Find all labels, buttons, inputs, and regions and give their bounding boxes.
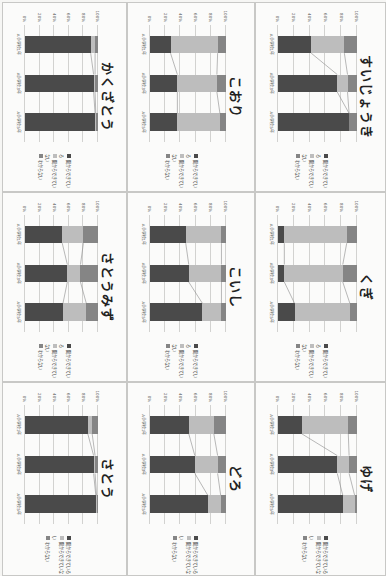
- x-category-label: A小学校5年: [16, 484, 22, 524]
- chart-title: こおり: [227, 3, 246, 191]
- y-tick-label: 40%: [52, 198, 57, 212]
- y-tick-label: 60%: [193, 388, 198, 402]
- chart-body: かくざとう 0%20%40%60%80%100%A小学校1年A小学校3年A小学校…: [3, 3, 126, 191]
- x-category-label: A小学校5年: [269, 484, 275, 524]
- y-tick-label: 40%: [178, 8, 183, 22]
- y-tick-label: 0%: [276, 198, 281, 212]
- y-tick-label: 0%: [23, 388, 28, 402]
- y-tick-label: 60%: [193, 8, 198, 22]
- x-category-label: A小学校1年: [269, 215, 275, 254]
- legend-item-can: 聞からできている: [192, 536, 199, 575]
- chart-rotator: かくざとう 0%20%40%60%80%100%A小学校1年A小学校3年A小学校…: [3, 3, 126, 191]
- plot-area: 0%20%40%60%80%100%A小学校1年A小学校3年A小学校5年: [278, 215, 357, 332]
- x-category-label: A小学校1年: [269, 25, 275, 64]
- legend-item-can: 聞からできている: [58, 154, 72, 191]
- legend-item-can: 聞からできている: [315, 344, 329, 381]
- x-category-label: A小学校3年: [269, 254, 275, 293]
- x-category-label: A小学校1年: [269, 405, 275, 445]
- y-tick-label: 0%: [148, 198, 153, 212]
- y-tick-label: 20%: [291, 8, 296, 22]
- chart-panel-2: すいじょうき 0%20%40%60%80%100%A小学校1年A小学校3年A小学…: [255, 2, 386, 192]
- chart-legend: 聞からできている 聞からできていない わからない: [37, 344, 72, 381]
- legend-item-unknown: わからない: [164, 154, 171, 191]
- legend-item-cannot: 聞からできていない: [301, 344, 315, 381]
- legend-swatch-icon: [53, 154, 57, 158]
- x-category-label: A小学校5年: [141, 484, 147, 524]
- chart-title: くぎ: [358, 193, 377, 381]
- y-tick-label: 80%: [81, 8, 86, 22]
- chart-legend: 聞からできている 聞からできていない わからない: [301, 536, 329, 575]
- y-tick-label: 100%: [355, 388, 360, 402]
- y-tick-label: 20%: [163, 198, 168, 212]
- y-tick-label: 60%: [323, 198, 328, 212]
- legend-swatch-icon: [324, 536, 328, 540]
- chart-title: すいじょうき: [358, 3, 377, 191]
- y-tick-label: 60%: [66, 388, 71, 402]
- y-tick-label: 80%: [208, 388, 213, 402]
- x-category-label: A小学校1年: [141, 405, 147, 445]
- y-tick-label: 100%: [224, 8, 229, 22]
- chart-body: さとうみず 0%20%40%60%80%100%A小学校1年A小学校3年A小学校…: [3, 193, 126, 381]
- plot-area: 0%20%40%60%80%100%A小学校1年A小学校3年A小学校5年: [150, 215, 226, 332]
- y-tick-label: 100%: [224, 388, 229, 402]
- legend-item-can: 聞からできている: [185, 344, 199, 381]
- plot-area: 0%20%40%60%80%100%A小学校1年A小学校3年A小学校5年: [25, 25, 98, 142]
- chart-title: こいし: [227, 193, 246, 381]
- x-category-label: A小学校1年: [141, 215, 147, 254]
- legend-swatch-icon: [180, 344, 184, 348]
- series-connector-lines: [150, 215, 226, 332]
- chart-rotator: くぎ 0%20%40%60%80%100%A小学校1年A小学校3年A小学校5年 …: [256, 193, 385, 381]
- chart-rotator: ゆげ 0%20%40%60%80%100%A小学校1年A小学校3年A小学校5年 …: [256, 383, 385, 575]
- chart-body: こおり 0%20%40%60%80%100%A小学校1年A小学校3年A小学校5年…: [128, 3, 254, 191]
- chart-body: どろ 0%20%40%60%80%100%A小学校1年A小学校3年A小学校5年 …: [128, 383, 254, 575]
- chart-body: ゆげ 0%20%40%60%80%100%A小学校1年A小学校3年A小学校5年 …: [256, 383, 385, 575]
- chart-body: こいし 0%20%40%60%80%100%A小学校1年A小学校3年A小学校5年…: [128, 193, 254, 381]
- y-tick-label: 100%: [96, 198, 101, 212]
- x-category-label: A小学校5年: [141, 103, 147, 142]
- legend-swatch-icon: [166, 344, 170, 348]
- chart-body: くぎ 0%20%40%60%80%100%A小学校1年A小学校3年A小学校5年 …: [256, 193, 385, 381]
- legend-item-can: 聞からできている: [322, 536, 329, 575]
- y-tick-label: 40%: [178, 198, 183, 212]
- legend-swatch-icon: [310, 344, 314, 348]
- x-category-label: A小学校3年: [269, 445, 275, 485]
- chart-panel-5: くぎ 0%20%40%60%80%100%A小学校1年A小学校3年A小学校5年 …: [255, 192, 386, 382]
- legend-swatch-icon: [53, 344, 57, 348]
- legend-swatch-icon: [39, 154, 43, 158]
- y-tick-label: 60%: [323, 8, 328, 22]
- legend-item-unknown: わからない: [44, 536, 51, 575]
- legend-swatch-icon: [324, 154, 328, 158]
- series-connector-lines: [150, 25, 226, 142]
- legend-swatch-icon: [303, 536, 307, 540]
- y-tick-label: 60%: [193, 198, 198, 212]
- x-category-label: A小学校3年: [269, 64, 275, 103]
- legend-swatch-icon: [46, 536, 50, 540]
- y-tick-label: 100%: [96, 388, 101, 402]
- legend-item-can: 聞からできている: [65, 536, 72, 575]
- chart-panel-8: ゆげ 0%20%40%60%80%100%A小学校1年A小学校3年A小学校5年 …: [255, 382, 386, 576]
- chart-title: ゆげ: [358, 383, 377, 575]
- legend-swatch-icon: [180, 154, 184, 158]
- legend-item-can: 聞からできている: [185, 154, 199, 191]
- y-tick-label: 0%: [276, 388, 281, 402]
- y-tick-label: 40%: [52, 8, 57, 22]
- legend-item-cannot: 聞からできていない: [171, 344, 185, 381]
- legend-swatch-icon: [194, 154, 198, 158]
- legend-swatch-icon: [324, 344, 328, 348]
- y-tick-label: 80%: [81, 198, 86, 212]
- x-category-label: A小学校3年: [141, 64, 147, 103]
- legend-swatch-icon: [67, 536, 71, 540]
- y-tick-label: 20%: [37, 8, 42, 22]
- chart-title: かくざとう: [99, 3, 118, 191]
- y-tick-label: 100%: [355, 198, 360, 212]
- chart-rotator: すいじょうき 0%20%40%60%80%100%A小学校1年A小学校3年A小学…: [256, 3, 385, 191]
- x-category-label: A小学校5年: [269, 293, 275, 332]
- chart-legend: 聞からできている 聞からできていない わからない: [44, 536, 72, 575]
- series-connector-lines: [25, 215, 98, 332]
- y-tick-label: 20%: [37, 198, 42, 212]
- y-tick-label: 60%: [66, 198, 71, 212]
- y-tick-label: 80%: [208, 8, 213, 22]
- legend-swatch-icon: [60, 536, 64, 540]
- legend-item-cannot: 聞からできていない: [51, 536, 65, 575]
- x-category-label: A小学校1年: [16, 405, 22, 445]
